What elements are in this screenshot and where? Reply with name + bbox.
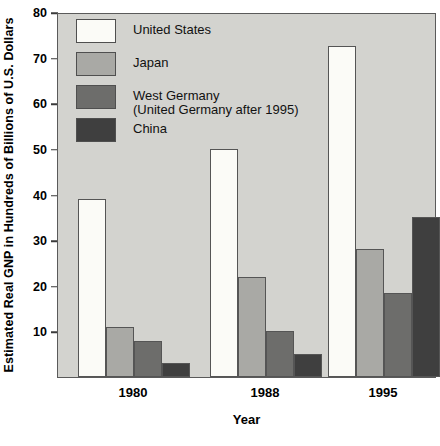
y-axis-tick-label: 60 <box>33 97 47 111</box>
chart-legend: United StatesJapanWest Germany (United G… <box>76 19 376 151</box>
x-axis-tick-label: 1980 <box>119 385 148 400</box>
y-axis-tick-label: 20 <box>33 280 47 294</box>
y-axis-tick-label: 40 <box>33 189 47 203</box>
y-axis-tick-label: 50 <box>33 143 47 157</box>
legend-swatch <box>76 85 116 109</box>
bar <box>78 199 106 377</box>
bar <box>266 331 294 377</box>
legend-label: Japan <box>133 52 168 70</box>
y-axis-tick-label: 30 <box>33 234 47 248</box>
legend-item: China <box>76 118 376 144</box>
bar <box>134 341 162 378</box>
x-axis-tick-label: 1995 <box>369 385 398 400</box>
legend-item: West Germany (United Germany after 1995) <box>76 85 376 111</box>
legend-swatch <box>76 52 116 76</box>
legend-label: West Germany (United Germany after 1995) <box>133 85 298 117</box>
x-axis-title: Year <box>57 412 436 427</box>
bar <box>210 149 238 377</box>
x-axis-tick-labels: 198019881995 <box>57 385 436 407</box>
legend-label: China <box>133 118 167 136</box>
bar <box>356 249 384 377</box>
y-axis-title: Estimated Real GNP in Hundreds of Billio… <box>0 0 18 390</box>
legend-label: United States <box>133 19 211 37</box>
legend-swatch <box>76 118 116 142</box>
x-axis-tick-label: 1988 <box>251 385 280 400</box>
legend-item: United States <box>76 19 376 45</box>
y-axis-tick-label: 80 <box>33 6 47 20</box>
y-axis-tick-labels: 1020304050607080 <box>18 0 50 390</box>
y-axis-tick-label: 10 <box>33 325 47 339</box>
bar <box>412 217 440 377</box>
bar <box>162 363 190 377</box>
y-axis-title-text: Estimated Real GNP in Hundreds of Billio… <box>2 18 16 373</box>
plot-area: United StatesJapanWest Germany (United G… <box>57 13 436 378</box>
bar <box>294 354 322 377</box>
legend-swatch <box>76 19 116 43</box>
bar <box>238 277 266 377</box>
bar <box>384 293 412 377</box>
bar <box>106 327 134 377</box>
legend-item: Japan <box>76 52 376 78</box>
y-axis-tick-label: 70 <box>33 52 47 66</box>
